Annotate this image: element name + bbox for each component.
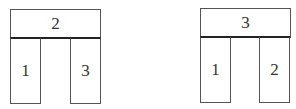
block-label: 3 xyxy=(81,61,90,81)
block-label: 2 xyxy=(270,60,279,80)
block-label: 2 xyxy=(51,14,60,34)
block-label: 3 xyxy=(241,13,250,33)
block-label: 1 xyxy=(211,60,220,80)
right-pillar: 3 xyxy=(70,37,101,104)
left-pillar: 1 xyxy=(10,37,41,104)
top-block: 3 xyxy=(200,8,291,38)
left-pillar: 1 xyxy=(200,36,231,103)
top-block: 2 xyxy=(10,9,101,39)
right-pillar: 2 xyxy=(259,36,290,103)
block-label: 1 xyxy=(21,61,30,81)
